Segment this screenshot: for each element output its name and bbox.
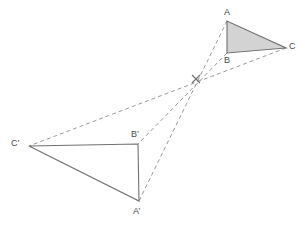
triangle-abc-group: [227, 21, 286, 53]
vertex-label-c: C: [289, 42, 296, 51]
vertex-label-b: B: [224, 56, 230, 65]
vertex-label-a-prime: A’: [133, 207, 140, 216]
diagram-canvas: A B C A’ B’ C’: [0, 0, 301, 228]
triangle-abc-shape: [227, 21, 286, 53]
vertex-label-b-prime: B’: [131, 130, 139, 139]
triangle-a-prime-b-prime-c-prime-shape: [29, 144, 139, 201]
ray-c-to-c-prime: [29, 48, 286, 146]
geometry-layer: [0, 0, 301, 228]
triangle-a-prime-b-prime-c-prime-group: [29, 144, 139, 201]
vertex-label-c-prime: C’: [11, 139, 20, 148]
ray-a-to-a-prime: [139, 21, 227, 201]
ray-b-to-b-prime: [138, 53, 227, 144]
vertex-label-a: A: [224, 8, 230, 17]
